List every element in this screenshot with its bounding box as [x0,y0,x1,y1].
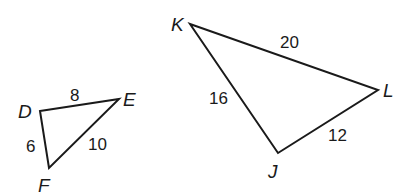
side-length-ef: 10 [88,135,107,154]
side-length-df: 6 [26,137,35,156]
side-length-de: 8 [70,86,79,105]
vertex-label-k: K [171,14,185,35]
side-length-kl: 20 [280,33,299,52]
triangle-def-outline [40,99,119,168]
side-length-kj: 16 [209,89,228,108]
similar-triangles-diagram: D E F 8 6 10 K L J 20 16 12 [0,0,400,196]
vertex-label-l: L [383,80,394,101]
side-length-lj: 12 [328,126,347,145]
vertex-label-d: D [18,101,32,122]
vertex-label-j: J [267,161,278,182]
vertex-label-e: E [123,89,136,110]
triangle-klj: K L J 20 16 12 [171,14,394,182]
triangle-def: D E F 8 6 10 [18,86,136,196]
vertex-label-f: F [38,175,51,196]
